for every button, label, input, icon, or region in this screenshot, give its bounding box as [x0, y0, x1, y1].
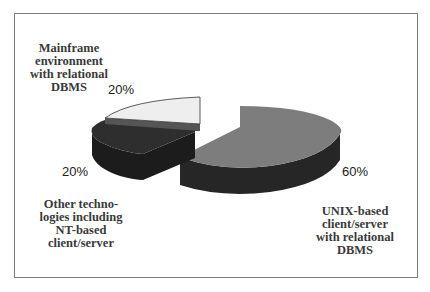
pct-unix: 60%	[342, 164, 368, 179]
slice-unix	[180, 106, 341, 194]
pct-other: 20%	[62, 164, 88, 179]
label-unix: UNIX-based client/server with relational…	[312, 205, 398, 257]
faded-caption	[60, 281, 280, 289]
label-other: Other techno- logies including NT-based …	[38, 198, 124, 250]
pct-mainframe: 20%	[108, 82, 134, 97]
label-mainframe: Mainframe environment with relational DB…	[28, 42, 110, 94]
